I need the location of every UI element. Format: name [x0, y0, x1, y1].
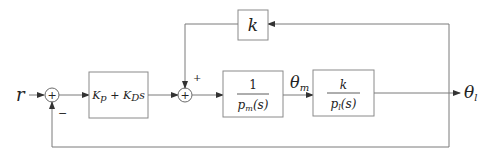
controller-label: Kp + KDs	[91, 89, 145, 103]
load-numerator: k	[340, 78, 347, 92]
spring-k-label: k	[248, 15, 258, 35]
input-label-r: r	[16, 84, 26, 105]
load-block: k pl(s)	[313, 70, 374, 116]
summing-junction-1: +	[45, 88, 59, 102]
theta-m-label: θm	[290, 73, 309, 93]
block-diagram: r + − Kp + KDs + + 1 pm(s) θm k pl(s)	[0, 0, 496, 157]
sum1-minus-sign: −	[58, 107, 67, 120]
sum2-plus-sign: +	[193, 72, 201, 83]
sum2-plus-symbol: +	[180, 89, 189, 102]
motor-denominator: pm(s)	[238, 98, 269, 113]
motor-block: 1 pm(s)	[223, 71, 283, 117]
spring-feedback-block: k	[238, 10, 268, 40]
theta-l-label: θl	[464, 82, 477, 103]
controller-block: Kp + KDs	[89, 72, 148, 118]
motor-numerator: 1	[249, 78, 257, 92]
sum1-plus-symbol: +	[47, 89, 56, 102]
summing-junction-2: +	[178, 88, 192, 102]
load-denominator: pl(s)	[331, 97, 357, 112]
